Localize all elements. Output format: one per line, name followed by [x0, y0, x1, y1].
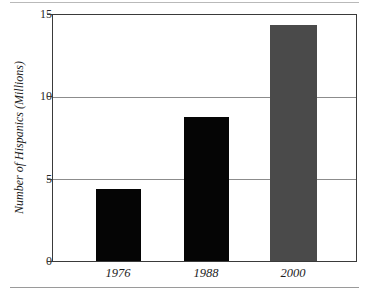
- y-axis-title: Number of Hispanics (Millions): [12, 23, 27, 253]
- x-tick-label-2000: 2000: [248, 266, 338, 281]
- bar-1988: [184, 117, 229, 261]
- bar-2000: [270, 25, 317, 261]
- plot-area: [52, 14, 357, 262]
- top-divider-rule: [10, 2, 359, 3]
- bar-1976: [96, 189, 141, 261]
- x-tick-label-1988: 1988: [161, 266, 251, 281]
- x-tick-label-1976: 1976: [73, 266, 163, 281]
- y-tick-label-15: 15: [8, 8, 52, 20]
- bottom-divider-rule: [10, 287, 359, 288]
- x-axis-tick-labels: 1976 1988 2000: [0, 266, 369, 288]
- bar-chart-figure: 15 10 5 0 Number of Hispanics (Millions)…: [0, 0, 369, 298]
